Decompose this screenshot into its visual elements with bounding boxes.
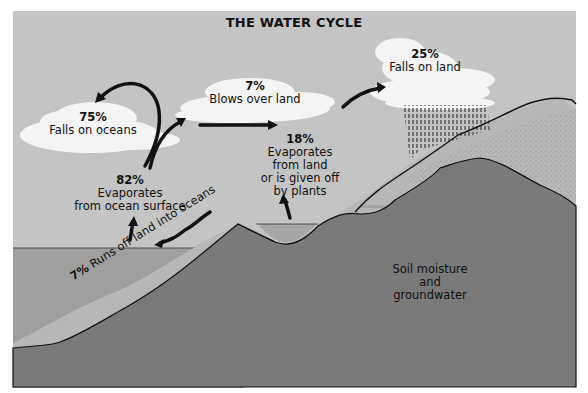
label-soil-moisture: Soil moisture and groundwater	[370, 263, 490, 302]
text-falls-on-land: Falls on land	[389, 60, 460, 74]
label-falls-on-land: 25% Falls on land	[375, 48, 475, 74]
label-evaporates-land: 18% Evaporates from land or is given off…	[260, 133, 340, 198]
label-blows-over-land: 7% Blows over land	[200, 80, 310, 106]
text-falls-on-oceans: Falls on oceans	[49, 123, 136, 137]
label-falls-on-oceans: 75% Falls on oceans	[38, 111, 148, 137]
text-soil-3: groundwater	[370, 289, 490, 302]
diagram-title: THE WATER CYCLE	[0, 15, 588, 30]
text-blows-over-land: Blows over land	[209, 92, 300, 106]
text-evaporates-land-4: by plants	[260, 185, 340, 198]
